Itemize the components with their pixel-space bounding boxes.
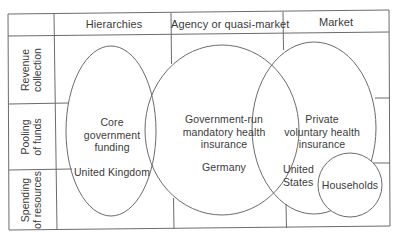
hierarchies-line3: funding: [94, 141, 129, 154]
hierarchies-text: Core government funding United Kingdom: [66, 116, 158, 178]
row-divider-1-left: [9, 103, 68, 104]
market-text: Private voluntary health insurance: [270, 113, 374, 151]
column-divider-2-bottom: [286, 204, 287, 228]
agency-text: Government-run mandatory health insuranc…: [172, 113, 276, 173]
row-label-revenue-collection: Revenue collection: [19, 39, 45, 101]
agency-line1: Government-run: [185, 113, 263, 126]
hierarchies-example: United Kingdom: [74, 166, 150, 179]
row-label-revenue-line2: collection: [31, 39, 43, 101]
row-label-spending-of-resources: Spending of resources: [19, 164, 45, 236]
hierarchies-line1: Core: [100, 116, 123, 129]
header-agency: Agency or quasi-market: [171, 16, 284, 32]
agency-example: Germany: [202, 161, 246, 174]
header-divider: [8, 32, 389, 36]
label-column-divider: [54, 14, 57, 230]
market-example-line1: United: [283, 163, 319, 176]
hierarchies-line2: government: [84, 129, 140, 142]
row-label-revenue-line1: Revenue: [19, 39, 31, 101]
row-label-pooling-line2: of funds: [31, 106, 43, 168]
column-divider-1-bottom: [174, 198, 175, 229]
header-hierarchies: Hierarchies: [56, 16, 172, 32]
market-example: United States: [283, 163, 319, 188]
row-label-pooling-of-funds: Pooling of funds: [19, 106, 45, 168]
row-label-spending-line1: Spending: [19, 164, 31, 236]
agency-line2: mandatory health: [183, 126, 266, 139]
row-label-pooling-line1: Pooling: [19, 106, 31, 168]
households-label: Households: [318, 179, 382, 192]
row-label-spending-line2: of resources: [31, 164, 43, 236]
market-line1: Private: [305, 113, 338, 126]
market-example-line2: States: [283, 176, 319, 189]
header-market: Market: [283, 14, 389, 30]
market-line2: voluntary health: [284, 126, 360, 139]
health-financing-diagram: Hierarchies Agency or quasi-market Marke…: [0, 0, 394, 238]
agency-line3: insurance: [201, 138, 247, 151]
market-line3: insurance: [299, 138, 345, 151]
